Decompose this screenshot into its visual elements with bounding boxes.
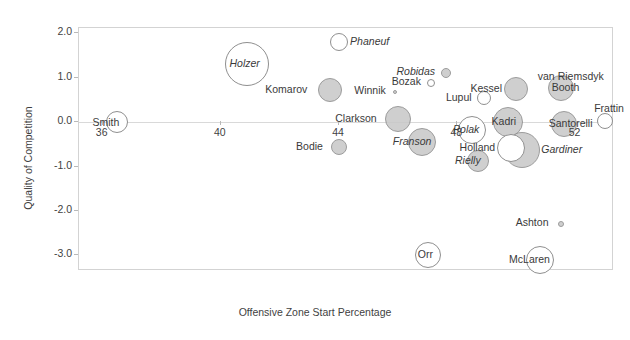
point-label-santorelli: Santorelli [549, 118, 593, 129]
bubble-komarov[interactable] [318, 78, 342, 102]
point-label-orr: Orr [418, 249, 433, 260]
point-label-kadri: Kadri [492, 116, 517, 127]
point-label-gardiner: Gardiner [541, 144, 582, 155]
point-label-bodie: Bodie [296, 141, 323, 152]
point-label-booth: Booth [552, 82, 579, 93]
point-label-mclaren: McLaren [509, 254, 550, 265]
y-axis-tick-label: 1.0 [38, 70, 72, 82]
y-axis-tick-mark [74, 166, 78, 167]
point-label-lupul: Lupul [446, 92, 472, 103]
plot-area [78, 27, 613, 270]
plot-inner [79, 28, 612, 269]
y-axis-tick-mark [74, 254, 78, 255]
bubble-winnik[interactable] [393, 90, 397, 94]
bubble-robidas[interactable] [441, 68, 451, 78]
bubble-clarkson[interactable] [385, 106, 411, 132]
x-axis-tick-label: 40 [208, 126, 232, 138]
y-axis-title: Quality of Competition [22, 78, 34, 238]
point-label-komarov: Komarov [265, 84, 307, 95]
point-label-franson: Franson [393, 136, 432, 147]
point-label-polak: Polak [453, 124, 479, 135]
bubble-frattin[interactable] [597, 113, 613, 129]
point-label-ashton: Ashton [516, 217, 549, 228]
bubble-kessel[interactable] [504, 77, 528, 101]
y-axis-tick-label: 0.0 [38, 114, 72, 126]
point-label-holland: Holland [460, 142, 496, 153]
point-label-phaneuf: Phaneuf [350, 36, 389, 47]
y-axis-tick-mark [74, 210, 78, 211]
point-label-kessel: Kessel [470, 83, 502, 94]
point-label-winnik: Winnik [354, 85, 386, 96]
y-axis-tick-mark [74, 32, 78, 33]
point-label-van-riemsdyk: van Riemsdyk [538, 71, 604, 82]
point-label-smith: Smith [92, 117, 119, 128]
point-label-frattin: Frattin [594, 103, 624, 114]
y-axis-tick-label: -3.0 [38, 247, 72, 259]
y-axis-tick-label: -1.0 [38, 159, 72, 171]
bubble-holland[interactable] [497, 134, 525, 162]
bubble-chart: 2.01.00.0-1.0-2.0-3.03640444852 Offensiv… [0, 0, 630, 340]
y-axis-tick-mark [74, 77, 78, 78]
point-label-holzer: Holzer [229, 58, 259, 69]
y-axis-tick-mark [74, 121, 78, 122]
bubble-ashton[interactable] [558, 221, 564, 227]
bubble-bodie[interactable] [331, 139, 347, 155]
point-label-bozak: Bozak [392, 76, 421, 87]
y-axis-tick-label: 2.0 [38, 25, 72, 37]
x-axis-tick-mark [220, 121, 221, 125]
bubble-phaneuf[interactable] [330, 33, 348, 51]
point-label-rielly: Rielly [455, 155, 481, 166]
bubble-bozak[interactable] [427, 79, 435, 87]
x-axis-title: Offensive Zone Start Percentage [0, 306, 630, 318]
y-axis-tick-label: -2.0 [38, 203, 72, 215]
point-label-clarkson: Clarkson [335, 113, 376, 124]
x-axis-tick-label: 44 [326, 126, 350, 138]
